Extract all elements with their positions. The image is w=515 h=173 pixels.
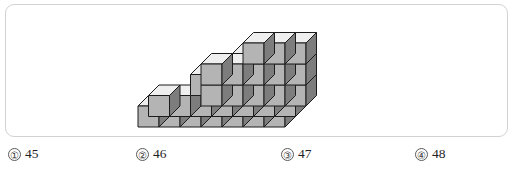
figure-stage — [6, 5, 507, 136]
choice-marker-4-icon: ④ — [415, 148, 428, 161]
choice-marker-2-icon: ② — [136, 148, 149, 161]
choice-label-3: 47 — [298, 146, 312, 162]
answer-choices: ① 45 ② 46 ③ 47 ④ 48 — [0, 146, 515, 173]
page-root: ① 45 ② 46 ③ 47 ④ 48 — [0, 0, 515, 173]
answer-choice-2[interactable]: ② 46 — [136, 146, 167, 162]
choice-marker-1-icon: ① — [8, 148, 21, 161]
choice-label-1: 45 — [25, 146, 39, 162]
answer-choice-4[interactable]: ④ 48 — [415, 146, 446, 162]
answer-choice-1[interactable]: ① 45 — [8, 146, 39, 162]
choice-label-4: 48 — [432, 146, 446, 162]
choice-label-2: 46 — [153, 146, 167, 162]
choice-marker-3-icon: ③ — [281, 148, 294, 161]
answer-choice-3[interactable]: ③ 47 — [281, 146, 312, 162]
isometric-cube-stack-figure — [6, 5, 509, 136]
figure-panel — [5, 4, 508, 137]
